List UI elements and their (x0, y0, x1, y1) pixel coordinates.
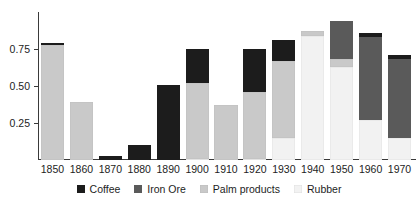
legend-swatch-icon (134, 185, 142, 193)
bar-segment-iron-ore (359, 37, 382, 120)
bar-segment-rubber (186, 159, 209, 160)
bar-column[interactable] (388, 12, 411, 160)
bar-column[interactable] (157, 12, 180, 160)
x-axis-label: 1900 (183, 163, 212, 175)
x-axis-label: 1860 (67, 163, 96, 175)
legend-label: Palm products (213, 183, 280, 195)
x-axis-label: 1910 (212, 163, 241, 175)
bar-column[interactable] (301, 12, 324, 160)
legend-swatch-icon (200, 185, 208, 193)
bar-segment-rubber (388, 138, 411, 160)
x-axis-label: 1930 (269, 163, 298, 175)
bar-column[interactable] (128, 12, 151, 160)
bar-segment-rubber (330, 67, 353, 160)
bar-segment-palm-products (41, 45, 64, 160)
bar-segment-iron-ore (388, 59, 411, 137)
x-axis-label: 1870 (96, 163, 125, 175)
bar-segment-palm-products (272, 61, 295, 138)
bar-column[interactable] (186, 12, 209, 160)
bar-segment-palm-products (330, 59, 353, 66)
bar-segment-rubber (301, 36, 324, 160)
bar-column[interactable] (330, 12, 353, 160)
legend-item[interactable]: Palm products (200, 183, 280, 195)
bar-column[interactable] (41, 12, 64, 160)
legend-item[interactable]: Coffee (77, 183, 121, 195)
bar-segment-palm-products (70, 102, 93, 160)
y-axis-label: 0.50 (0, 81, 30, 91)
bar-segment-coffee (272, 40, 295, 61)
bar-segment-coffee (128, 145, 151, 160)
bar-segment-rubber (243, 159, 266, 160)
x-axis-label: 1850 (38, 163, 67, 175)
legend-item[interactable]: Rubber (294, 183, 341, 195)
bar-column[interactable] (243, 12, 266, 160)
bar-segment-coffee (99, 156, 122, 160)
bar-segment-rubber (359, 120, 382, 160)
bar-segment-coffee (157, 85, 180, 160)
x-axis-label: 1960 (356, 163, 385, 175)
stacked-bar-chart: 0.250.500.75 185018601870188018901900191… (0, 0, 418, 211)
x-axis-label: 1890 (154, 163, 183, 175)
plot-area (38, 12, 414, 160)
legend-label: Iron Ore (147, 183, 186, 195)
legend-swatch-icon (77, 185, 85, 193)
legend-label: Rubber (307, 183, 341, 195)
bar-column[interactable] (214, 12, 237, 160)
bar-column[interactable] (359, 12, 382, 160)
bar-segment-rubber (272, 138, 295, 160)
bar-column[interactable] (70, 12, 93, 160)
y-axis-label: 0.25 (0, 118, 30, 128)
y-axis-label: 0.75 (0, 44, 30, 54)
x-axis-label: 1940 (298, 163, 327, 175)
bar-segment-palm-products (243, 92, 266, 159)
bar-segment-iron-ore (330, 21, 353, 59)
chart-legend: CoffeeIron OrePalm productsRubber (0, 183, 418, 195)
bar-segment-coffee (186, 49, 209, 83)
bar-segment-palm-products (186, 83, 209, 158)
legend-item[interactable]: Iron Ore (134, 183, 186, 195)
bar-column[interactable] (99, 12, 122, 160)
x-axis-label: 1950 (327, 163, 356, 175)
legend-label: Coffee (90, 183, 121, 195)
legend-swatch-icon (294, 185, 302, 193)
x-axis-label: 1970 (385, 163, 414, 175)
x-axis-label: 1880 (125, 163, 154, 175)
bar-column[interactable] (272, 12, 295, 160)
x-axis-label: 1920 (240, 163, 269, 175)
bar-segment-coffee (243, 49, 266, 92)
bar-segment-palm-products (214, 105, 237, 160)
